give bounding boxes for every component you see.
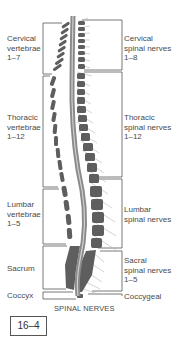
box-coccyx bbox=[43, 292, 76, 299]
diagram-caption: SPINAL NERVES bbox=[54, 304, 115, 313]
label-cervical-spinal-nerves: Cervical spinal nerves 1–8 bbox=[124, 34, 171, 63]
figure-number: 16–4 bbox=[10, 316, 47, 336]
label-cervical-vertebrae: Cervical vertebrae 1–7 bbox=[7, 34, 41, 63]
label-thoracic-vertebrae: Thoracic vertebrae 1–12 bbox=[7, 113, 41, 142]
label-coccyx: Coccyx bbox=[7, 291, 33, 301]
label-coccygeal: Coccygeal bbox=[124, 292, 161, 302]
label-thoracic-spinal-nerves: Thoracic spinal nerves 1–12 bbox=[124, 113, 171, 142]
box-cervical-nerves bbox=[82, 20, 122, 70]
label-sacral-spinal-nerves: Sacral spinal nerves 1–5 bbox=[124, 256, 171, 285]
box-lumbar-vertebrae bbox=[43, 189, 66, 244]
box-thoracic-nerves bbox=[84, 72, 122, 177]
box-sacral-nerves bbox=[92, 251, 122, 291]
label-lumbar-vertebrae: Lumbar vertebrae 1–5 bbox=[7, 200, 41, 229]
label-sacrum: Sacrum bbox=[7, 264, 35, 274]
box-sacrum bbox=[43, 246, 67, 289]
label-lumbar-spinal-nerves: Lumbar spinal nerves bbox=[124, 205, 171, 224]
box-coccygeal-nerves bbox=[88, 294, 122, 296]
